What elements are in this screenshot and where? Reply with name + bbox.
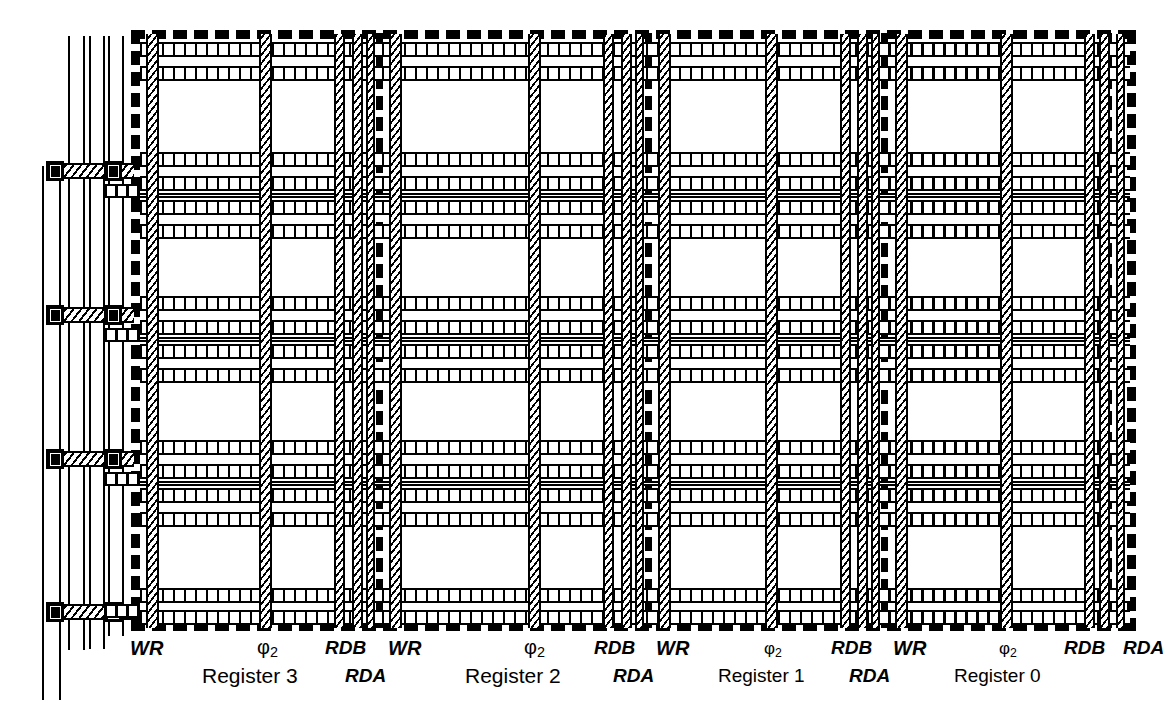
label-rdb-r1: RDB	[831, 638, 872, 657]
label-clk-base-r3: φ	[257, 636, 270, 658]
poly-gate-rda-r3	[352, 34, 363, 628]
label-rda-r1: RDA	[849, 666, 890, 685]
poly-gate-rda-r2	[621, 34, 632, 628]
label-wr-r2: WR	[388, 638, 421, 658]
contact-cut	[46, 602, 64, 622]
label-wr-r0: WR	[893, 638, 926, 658]
label-clk-sub-r1: 2	[775, 646, 782, 660]
contact-cut	[104, 305, 122, 325]
poly-gate-sep-r1	[871, 34, 880, 628]
label-clk-base-r0: φ	[999, 639, 1010, 658]
layout-canvas: WR φ2 RDB WR φ2 RDB WR φ2 RDB WR φ2 RDB …	[0, 0, 1175, 718]
label-clk-base-r2: φ	[524, 636, 537, 658]
label-rda-r3: RDA	[345, 666, 386, 685]
poly-gate-rdb-r2	[603, 34, 614, 628]
label-clk-sub-r2: 2	[537, 644, 545, 660]
metal-rail-top	[131, 30, 1136, 39]
poly-gate-rda-r1	[857, 34, 868, 628]
contact-cut	[104, 161, 122, 181]
label-register-1: Register 1	[718, 666, 805, 685]
driver-stub-wire	[104, 328, 140, 342]
label-clk-sub-r0: 2	[1010, 646, 1017, 660]
poly-gate-sep-r0	[1116, 34, 1125, 628]
label-register-3: Register 3	[202, 665, 298, 686]
poly-gate-clk-r0	[1000, 34, 1013, 628]
contact-cut	[46, 305, 64, 325]
label-register-0: Register 0	[954, 666, 1041, 685]
label-rdb-r0: RDB	[1064, 638, 1105, 657]
poly-gate-rdb-r3	[334, 34, 345, 628]
poly-gate-sep-r2	[635, 34, 644, 628]
poly-gate-clk-r1	[765, 34, 778, 628]
label-rda-r0: RDA	[1123, 638, 1164, 657]
label-clk-r0: φ2	[999, 640, 1017, 659]
label-wr-r1: WR	[656, 638, 689, 658]
contact-cut	[104, 449, 122, 469]
poly-gate-clk-r2	[528, 34, 541, 628]
label-rdb-r3: RDB	[325, 638, 366, 657]
poly-gate-rdb-r1	[840, 34, 851, 628]
driver-stub-wire	[104, 472, 140, 486]
label-clk-sub-r3: 2	[270, 644, 278, 660]
contact-cut	[46, 161, 64, 181]
poly-gate-wr-r1	[658, 34, 671, 628]
poly-gate-rdb-r0	[1084, 34, 1095, 628]
label-rdb-r2: RDB	[594, 638, 635, 657]
poly-gate-wr-r3	[146, 34, 159, 628]
label-rda-r2: RDA	[613, 666, 654, 685]
label-register-2: Register 2	[465, 665, 561, 686]
label-clk-base-r1: φ	[764, 639, 775, 658]
label-wr-r3: WR	[130, 638, 163, 658]
label-clk-r2: φ2	[524, 637, 545, 660]
left-rail-third	[89, 36, 105, 649]
poly-gate-rda-r0	[1099, 34, 1110, 628]
contact-cut	[46, 449, 64, 469]
poly-gate-wr-r2	[389, 34, 402, 628]
poly-gate-wr-r0	[895, 34, 908, 628]
left-rail-second	[68, 36, 85, 650]
poly-gate-clk-r3	[259, 34, 272, 628]
driver-stub-wire	[104, 604, 140, 618]
label-clk-r3: φ2	[257, 637, 278, 660]
driver-stub-wire	[104, 184, 140, 198]
poly-gate-sep-r3	[366, 34, 375, 628]
label-clk-r1: φ2	[764, 640, 782, 659]
